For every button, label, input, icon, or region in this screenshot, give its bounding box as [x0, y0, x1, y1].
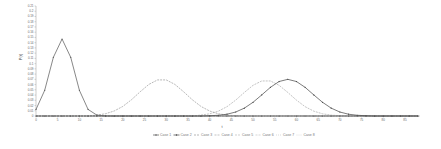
series-layer: [35, 38, 418, 116]
data-point: [417, 115, 418, 116]
data-point: [261, 115, 262, 116]
series-case-1: [35, 38, 418, 116]
x-tick-label: 5: [57, 118, 59, 122]
y-tick-label: 0.04: [28, 93, 34, 97]
legend-label: Case 4: [222, 133, 233, 137]
data-point: [44, 115, 45, 116]
data-point: [383, 115, 384, 116]
data-point: [200, 115, 201, 116]
x-tick-label: 85: [403, 118, 407, 122]
x-tick-label: 40: [208, 118, 212, 122]
data-point: [53, 57, 54, 58]
data-point: [183, 115, 184, 116]
data-point: [244, 108, 245, 109]
x-tick-label: 55: [273, 118, 277, 122]
legend-label: Case 1: [160, 133, 171, 137]
data-point: [305, 115, 306, 116]
data-point: [374, 115, 375, 116]
legend-item: Case 5: [235, 133, 253, 137]
data-point: [79, 90, 80, 91]
x-tick-label: 70: [338, 118, 342, 122]
data-point: [261, 94, 262, 95]
x-tick-label: 0: [35, 118, 37, 122]
y-tick-label: 0.17: [28, 25, 34, 29]
data-point: [166, 115, 167, 116]
data-point: [79, 115, 80, 116]
y-tick-label: 0.06: [28, 83, 34, 87]
y-tick-label: 0: [32, 114, 34, 118]
legend-item: Case 7: [276, 133, 294, 137]
data-point: [218, 115, 219, 116]
data-point: [226, 115, 227, 116]
data-point: [96, 114, 97, 115]
x-axis-label: t: [221, 124, 223, 129]
y-tick-label: 0.07: [28, 77, 34, 81]
series-case-2: [35, 79, 418, 117]
data-point: [157, 115, 158, 116]
data-point: [270, 87, 271, 88]
y-tick-label: 0.08: [28, 72, 34, 76]
data-point: [357, 115, 358, 116]
data-point: [174, 115, 175, 116]
data-point: [209, 115, 210, 116]
y-tick-label: 0.01: [28, 109, 34, 113]
data-point: [35, 109, 36, 110]
data-point: [409, 115, 410, 116]
y-tick-label: 0.16: [28, 30, 34, 34]
x-tick-label: 35: [186, 118, 190, 122]
data-point: [87, 115, 88, 116]
data-point: [252, 115, 253, 116]
x-tick-label: 10: [78, 118, 82, 122]
data-point: [287, 79, 288, 80]
data-point: [244, 115, 245, 116]
y-axis: 00.010.020.030.040.050.060.070.080.090.1…: [28, 4, 36, 118]
data-point: [70, 115, 71, 116]
data-point: [331, 115, 332, 116]
data-point: [70, 57, 71, 58]
y-tick-label: 0.18: [28, 20, 34, 24]
legend-label: Case 5: [242, 133, 253, 137]
x-tick-label: 45: [230, 118, 234, 122]
data-point: [44, 90, 45, 91]
data-point: [348, 115, 349, 116]
y-tick-label: 0.11: [28, 56, 34, 60]
data-point: [391, 115, 392, 116]
y-tick-label: 0.14: [28, 41, 34, 45]
x-tick-label: 60: [295, 118, 299, 122]
x-tick-label: 80: [382, 118, 386, 122]
data-point: [61, 115, 62, 116]
data-point: [122, 115, 123, 116]
x-tick-label: 20: [121, 118, 125, 122]
y-tick-label: 0.05: [28, 88, 34, 92]
data-point: [131, 115, 132, 116]
data-point: [339, 115, 340, 116]
x-tick-label: 50: [251, 118, 255, 122]
data-point: [278, 81, 279, 82]
line-chart: 00.010.020.030.040.050.060.070.080.090.1…: [0, 0, 441, 149]
legend-label: Case 7: [283, 133, 294, 137]
y-tick-label: 0.03: [28, 98, 34, 102]
legend-label: Case 6: [263, 133, 274, 137]
x-tick-label: 75: [360, 118, 364, 122]
data-point: [322, 102, 323, 103]
x-tick-label: 15: [99, 118, 103, 122]
legend-item: Case 6: [256, 133, 274, 137]
data-point: [235, 111, 236, 112]
legend-item: Case 3: [194, 133, 212, 137]
y-tick-label: 0.21: [28, 4, 34, 8]
data-point: [339, 111, 340, 112]
legend-marker: [155, 134, 156, 135]
data-point: [53, 115, 54, 116]
series-case-4: [36, 81, 418, 116]
y-tick-label: 0.09: [28, 67, 34, 71]
x-tick-label: 30: [165, 118, 169, 122]
data-point: [252, 102, 253, 103]
data-point: [400, 115, 401, 116]
x-axis: 0510152025303540455055606570758085: [35, 116, 420, 122]
data-point: [313, 115, 314, 116]
legend-item: Case 1: [153, 133, 171, 137]
y-tick-label: 0.2: [29, 9, 34, 13]
data-point: [270, 115, 271, 116]
data-point: [148, 115, 149, 116]
x-tick-label: 65: [316, 118, 320, 122]
